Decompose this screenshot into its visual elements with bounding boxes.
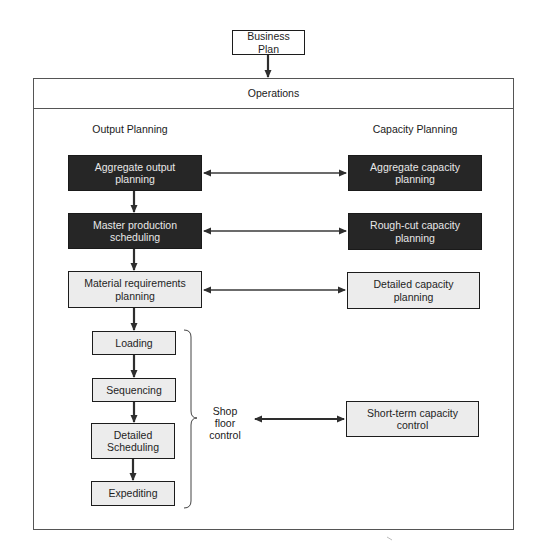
connector-layer <box>0 0 540 556</box>
shop-floor-brace <box>184 330 197 508</box>
